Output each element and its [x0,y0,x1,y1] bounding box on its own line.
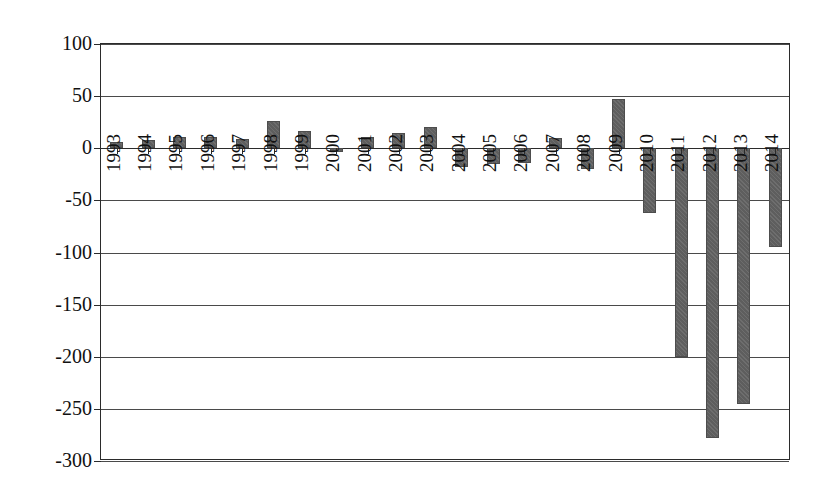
y-tick--300 [94,461,101,462]
x-axis-tick-label-2004: 2004 [449,134,468,172]
bar-2012 [706,148,719,438]
x-axis-tick-label-2001: 2001 [355,134,374,172]
x-axis-tick-label-2009: 2009 [606,134,625,172]
gridline-50 [101,96,789,97]
bar-chart: 100500-50-100-150-200-250-300 1993199419… [0,0,833,496]
y-tick-0 [94,148,101,149]
y-axis-tick-label: 50 [12,85,92,105]
x-axis-tick-label-2003: 2003 [417,134,436,172]
x-axis-tick-label-1995: 1995 [166,134,185,172]
x-axis-tick-label-2010: 2010 [637,134,656,172]
x-axis-tick-label-2011: 2011 [668,135,687,172]
bar-2013 [737,148,750,403]
x-axis-tick-label-2012: 2012 [700,134,719,172]
x-axis-tick-label-2007: 2007 [543,134,562,172]
x-axis-tick-label-2013: 2013 [731,134,750,172]
x-axis-tick-label-2006: 2006 [511,134,530,172]
gridline--250 [101,409,789,410]
x-axis-tick-label-2000: 2000 [323,134,342,172]
x-axis-tick-label-2008: 2008 [574,134,593,172]
y-axis-tick-label: 0 [12,137,92,157]
y-tick--50 [94,200,101,201]
y-axis-tick-label: -50 [12,189,92,209]
y-tick-50 [94,96,101,97]
x-axis-tick-label-1997: 1997 [229,134,248,172]
y-axis-tick-label: -100 [12,242,92,262]
x-axis-tick-label-1998: 1998 [261,134,280,172]
x-axis-tick-label-2014: 2014 [762,134,781,172]
gridline--200 [101,357,789,358]
x-axis-tick-label-1994: 1994 [135,134,154,172]
plot-area [100,43,790,460]
y-axis-tick-label: -150 [12,294,92,314]
x-axis-tick-label-1993: 1993 [104,134,123,172]
gridline-100 [101,44,789,45]
x-axis-tick-label-1996: 1996 [198,134,217,172]
gridline--300 [101,461,789,462]
y-axis-tick-label: -250 [12,398,92,418]
y-tick--250 [94,409,101,410]
bar-2011 [675,148,688,357]
x-axis-tick-label-2005: 2005 [480,134,499,172]
y-axis-tick-label: -200 [12,346,92,366]
y-tick--200 [94,357,101,358]
y-tick--100 [94,253,101,254]
y-tick-100 [94,44,101,45]
x-axis-tick-label-1999: 1999 [292,134,311,172]
y-axis-tick-label: -300 [12,450,92,470]
y-axis-tick-label: 100 [12,33,92,53]
x-axis-tick-label-2002: 2002 [386,134,405,172]
y-tick--150 [94,305,101,306]
